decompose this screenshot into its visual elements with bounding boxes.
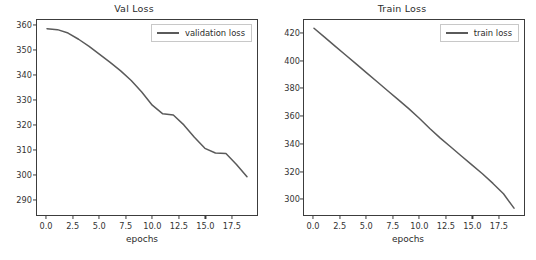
y-tick-label: 340 (284, 139, 300, 149)
x-axis-label-val-loss: epochs (8, 234, 276, 244)
y-tick-label: 300 (16, 170, 32, 180)
y-tick-label: 360 (16, 20, 32, 30)
x-tick-mark (313, 216, 314, 219)
x-tick-mark (366, 216, 367, 219)
line-series-validation-loss (37, 20, 257, 215)
x-tick-label: 0.0 (307, 221, 320, 231)
y-tick-label: 360 (284, 111, 300, 121)
chart-panel-val-loss: Val Loss 290300310320330340350360 0.02.5… (0, 0, 268, 260)
x-tick-mark (46, 216, 47, 219)
legend-label-train-loss: train loss (474, 28, 512, 38)
series-line-validation-loss (47, 29, 247, 177)
y-tick-label: 320 (284, 167, 300, 177)
y-tick-label: 300 (284, 194, 300, 204)
y-tick-label: 330 (16, 95, 32, 105)
y-tick-label: 310 (16, 145, 32, 155)
chart-title-train-loss: Train Loss (268, 3, 536, 14)
x-tick-mark (125, 216, 126, 219)
x-tick-mark (99, 216, 100, 219)
x-tick-mark (419, 216, 420, 219)
legend-swatch-train-loss (446, 32, 468, 34)
x-tick-label: 2.5 (333, 221, 346, 231)
x-tick-label: 12.5 (437, 221, 455, 231)
legend-label-validation-loss: validation loss (185, 28, 245, 38)
x-tick-label: 15.0 (463, 221, 481, 231)
plot-area-val-loss: validation loss (36, 19, 258, 216)
x-tick-mark (152, 216, 153, 219)
x-tick-mark (339, 216, 340, 219)
x-tick-label: 17.5 (223, 221, 241, 231)
y-tick-label: 340 (16, 70, 32, 80)
legend-swatch-validation-loss (157, 32, 179, 34)
legend-val-loss[interactable]: validation loss (151, 24, 252, 42)
y-tick-label: 290 (16, 195, 32, 205)
x-tick-label: 17.5 (490, 221, 508, 231)
x-tick-label: 10.0 (410, 221, 428, 231)
x-tick-label: 7.5 (386, 221, 399, 231)
x-tick-mark (205, 216, 206, 219)
x-tick-label: 0.0 (40, 221, 53, 231)
y-tick-label: 380 (284, 83, 300, 93)
x-tick-label: 10.0 (143, 221, 161, 231)
x-tick-label: 7.5 (119, 221, 132, 231)
x-tick-mark (231, 216, 232, 219)
x-tick-mark (72, 216, 73, 219)
x-tick-mark (445, 216, 446, 219)
y-tick-label: 350 (16, 45, 32, 55)
x-tick-label: 15.0 (196, 221, 214, 231)
plot-area-train-loss: train loss (303, 19, 525, 216)
x-tick-label: 5.0 (360, 221, 373, 231)
figure-canvas: Val Loss 290300310320330340350360 0.02.5… (0, 0, 536, 260)
x-tick-mark (392, 216, 393, 219)
x-tick-label: 5.0 (93, 221, 106, 231)
chart-panel-train-loss: Train Loss 300320340360380400420 0.02.55… (268, 0, 536, 260)
x-tick-mark (472, 216, 473, 219)
x-tick-mark (178, 216, 179, 219)
legend-train-loss[interactable]: train loss (440, 24, 519, 42)
y-tick-label: 320 (16, 120, 32, 130)
x-tick-mark (498, 216, 499, 219)
x-axis-label-train-loss: epochs (274, 234, 536, 244)
y-tick-label: 420 (284, 28, 300, 38)
y-axis-train-loss: 300320340360380400420 (268, 19, 300, 216)
y-axis-val-loss: 290300310320330340350360 (0, 19, 32, 216)
line-series-train-loss (304, 20, 524, 215)
series-line-train-loss (314, 28, 514, 208)
x-tick-label: 2.5 (66, 221, 79, 231)
y-tick-label: 400 (284, 56, 300, 66)
chart-title-val-loss: Val Loss (0, 3, 268, 14)
x-tick-label: 12.5 (170, 221, 188, 231)
